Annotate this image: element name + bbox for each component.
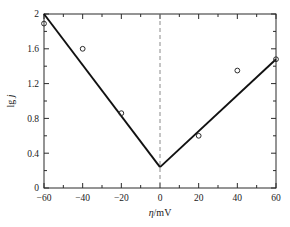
y-tick-label-group: 00.40.81.21.62	[27, 9, 39, 193]
x-axis-unit: /mV	[154, 207, 173, 218]
x-tick-label: 40	[233, 193, 243, 203]
x-tick-label: 0	[158, 193, 163, 203]
y-tick-label: 0.4	[27, 149, 39, 159]
x-tick-label: −40	[75, 193, 90, 203]
data-point-marker	[80, 46, 85, 51]
y-tick-label: 0.8	[27, 114, 39, 124]
data-point-marker	[235, 68, 240, 73]
y-tick-label: 2	[34, 9, 39, 19]
data-point-marker	[196, 133, 201, 138]
x-tick-label: −60	[37, 193, 52, 203]
x-axis-title: η/mV	[149, 207, 173, 218]
fit-line	[44, 14, 160, 167]
x-tick-label: 60	[271, 193, 281, 203]
chart-figure: −60−40−200204060 00.40.81.21.62 η/mV lg …	[0, 0, 290, 227]
y-axis-title: lg j	[5, 94, 16, 107]
y-tick-label: 0	[34, 183, 39, 193]
x-tick-label: −20	[114, 193, 129, 203]
y-tick-label: 1.2	[27, 79, 39, 89]
x-tick-label-group: −60−40−200204060	[37, 193, 281, 203]
x-tick-label: 20	[194, 193, 204, 203]
y-tick-label: 1.6	[27, 44, 39, 54]
svg-text:η/mV: η/mV	[149, 207, 173, 218]
scatter-plot-svg: −60−40−200204060 00.40.81.21.62 η/mV lg …	[0, 0, 290, 227]
fit-line	[160, 59, 276, 167]
svg-text:lg j: lg j	[5, 94, 16, 107]
y-axis-prefix: lg	[5, 97, 16, 107]
